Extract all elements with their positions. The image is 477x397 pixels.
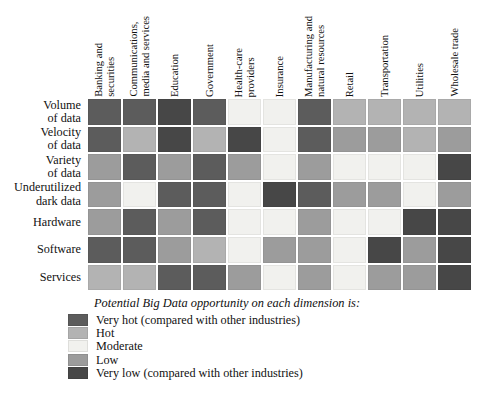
heatmap-cell xyxy=(263,99,296,125)
legend-swatch-very-hot xyxy=(68,314,88,326)
heatmap-cell xyxy=(228,237,261,263)
col-header: Transportation xyxy=(368,2,401,97)
heatmap-cell xyxy=(123,154,156,180)
heatmap-cell xyxy=(123,182,156,208)
heatmap-cell xyxy=(193,154,226,180)
heatmap-cell xyxy=(228,154,261,180)
heatmap-cell xyxy=(333,209,366,235)
heatmap-cell xyxy=(158,182,191,208)
col-header: Government xyxy=(193,2,226,97)
heatmap-cell xyxy=(333,99,366,125)
legend-swatch-very-low xyxy=(68,367,88,379)
heatmap-cell xyxy=(438,127,471,153)
legend-item: Low xyxy=(68,353,360,366)
heatmap-cell xyxy=(403,154,436,180)
heatmap-cell xyxy=(88,127,121,153)
legend-swatch-moderate xyxy=(68,340,88,352)
col-header-label: Wholesale trade xyxy=(449,28,461,97)
heatmap-cell xyxy=(403,127,436,153)
heatmap-cell xyxy=(88,237,121,263)
row-label: Volume of data xyxy=(1,99,86,125)
legend: Potential Big Data opportunity on each d… xyxy=(68,296,360,380)
heatmap-cell xyxy=(403,99,436,125)
col-header: Communications, media and services xyxy=(123,2,156,97)
heatmap-cell xyxy=(158,127,191,153)
heatmap-cell xyxy=(368,154,401,180)
heatmap-cell xyxy=(368,99,401,125)
col-header-label: Health-care providers xyxy=(233,48,257,97)
heatmap-cell xyxy=(298,237,331,263)
col-header-label: Communications, media and services xyxy=(128,16,152,97)
legend-item-label: Very low (compared with other industries… xyxy=(96,367,303,379)
col-header-label: Education xyxy=(169,54,181,97)
heatmap-cell xyxy=(193,237,226,263)
legend-item: Moderate xyxy=(68,340,360,353)
row-label: Software xyxy=(1,237,86,263)
heatmap-cell xyxy=(368,237,401,263)
heatmap-cell xyxy=(263,237,296,263)
col-header: Manufacturing and natural resources xyxy=(298,2,331,97)
heatmap-cell xyxy=(368,265,401,291)
row-label: Hardware xyxy=(1,209,86,235)
heatmap-cell xyxy=(298,182,331,208)
heatmap-cell xyxy=(263,154,296,180)
heatmap-cell xyxy=(263,209,296,235)
heatmap-cell xyxy=(193,209,226,235)
legend-item-label: Hot xyxy=(96,327,114,339)
heatmap-cell xyxy=(403,237,436,263)
col-header: Insurance xyxy=(263,2,296,97)
legend-item: Very low (compared with other industries… xyxy=(68,367,360,380)
heatmap-cell xyxy=(228,182,261,208)
heatmap-cell xyxy=(158,99,191,125)
col-header-label: Banking and securities xyxy=(93,43,117,97)
grid-corner xyxy=(1,2,86,97)
heatmap-cell xyxy=(333,154,366,180)
heatmap-cell xyxy=(263,182,296,208)
heatmap-cell xyxy=(228,99,261,125)
heatmap-cell xyxy=(123,99,156,125)
col-header-label: Government xyxy=(204,44,216,97)
heatmap-cell xyxy=(333,265,366,291)
col-header-label: Transportation xyxy=(379,35,391,97)
heatmap-cell xyxy=(193,127,226,153)
row-label: Underutilized dark data xyxy=(1,182,86,208)
heatmap-cell xyxy=(438,209,471,235)
col-header: Utilities xyxy=(403,2,436,97)
legend-item: Very hot (compared with other industries… xyxy=(68,313,360,326)
heatmap-cell xyxy=(438,265,471,291)
col-header: Education xyxy=(158,2,191,97)
heatmap-cell xyxy=(88,182,121,208)
heatmap-cell xyxy=(158,209,191,235)
row-label: Variety of data xyxy=(1,154,86,180)
col-header: Retail xyxy=(333,2,366,97)
legend-item-label: Moderate xyxy=(96,340,143,352)
heatmap-cell xyxy=(438,182,471,208)
heatmap-cell xyxy=(88,265,121,291)
heatmap-cell xyxy=(263,127,296,153)
heatmap-cell xyxy=(298,99,331,125)
heatmap-cell xyxy=(438,237,471,263)
heatmap-cell xyxy=(123,237,156,263)
heatmap-cell xyxy=(263,265,296,291)
legend-swatch-low xyxy=(68,354,88,366)
heatmap-cell xyxy=(333,127,366,153)
heatmap-cell xyxy=(158,237,191,263)
heatmap-cell xyxy=(333,237,366,263)
col-header-label: Retail xyxy=(344,72,356,97)
heatmap-cell xyxy=(88,209,121,235)
heatmap-cell xyxy=(88,99,121,125)
heatmap-cell xyxy=(298,265,331,291)
heatmap-figure: Banking and securitiesCommunications, me… xyxy=(0,0,477,397)
heatmap-cell xyxy=(368,182,401,208)
heatmap-cell xyxy=(298,127,331,153)
heatmap-cell xyxy=(158,154,191,180)
legend-item-label: Low xyxy=(96,354,118,366)
heatmap-cell xyxy=(193,182,226,208)
heatmap-cell xyxy=(368,127,401,153)
heatmap-cell xyxy=(228,265,261,291)
heatmap-cell xyxy=(403,265,436,291)
heatmap-cell xyxy=(368,209,401,235)
col-header: Health-care providers xyxy=(228,2,261,97)
legend-item: Hot xyxy=(68,326,360,339)
heatmap-grid: Banking and securitiesCommunications, me… xyxy=(1,2,471,290)
